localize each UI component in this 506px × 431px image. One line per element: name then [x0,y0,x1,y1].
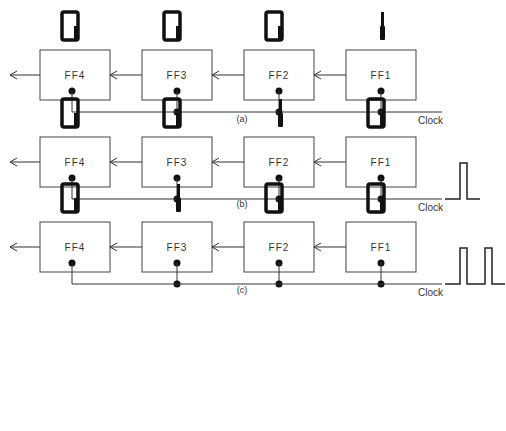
digit-display-0 [164,12,180,40]
clock-pulse-waveform [445,248,505,284]
panel-caption: (b) [237,199,248,209]
flip-flop-ff4: FF4 [40,12,110,112]
digit-display-0 [62,99,78,127]
flip-flop-ff1: FF1 [314,99,416,203]
digit-display-0 [368,99,384,127]
panel-a: FF4FF3FF2FF1Clock(a) [10,12,444,126]
flip-flop-label: FF2 [269,242,290,253]
flip-flop-label: FF4 [65,242,86,253]
panel-caption: (c) [237,285,248,295]
digit-segment-shade [278,113,283,127]
flip-flop-ff3: FF3 [110,99,212,203]
flip-flop-label: FF4 [65,70,86,81]
clock-label: Clock [418,115,444,126]
digit-segment-shade [278,198,282,212]
digit-display-0 [62,184,78,212]
flip-flop-ff1: FF1 [314,184,416,288]
digit-one-icon [279,99,282,113]
digit-segment-shade [74,26,78,40]
clock-label: Clock [418,287,444,298]
digit-display-0 [368,184,384,212]
digit-segment-shade [380,113,384,127]
digit-segment-shade [176,113,180,127]
digit-segment-shade [74,113,78,127]
flip-flop-ff2: FF2 [212,12,314,116]
flip-flop-label: FF2 [269,157,290,168]
digit-display-0 [266,12,282,40]
shift-register-diagram: FF4FF3FF2FF1Clock(a)FF4FF3FF2FF1Clock(b)… [0,0,506,431]
digit-display-0 [62,12,78,40]
flip-flop-ff2: FF2 [212,99,314,203]
flip-flop-label: FF3 [167,157,188,168]
flip-flop-label: FF3 [167,242,188,253]
digit-one-icon [381,12,384,26]
flip-flop-label: FF2 [269,70,290,81]
flip-flop-label: FF3 [167,70,188,81]
flip-flop-label: FF1 [371,70,392,81]
digit-segment-shade [278,26,282,40]
flip-flop-ff1: FF1 [314,12,416,116]
flip-flop-ff2: FF2 [212,184,314,288]
digit-segment-shade [74,198,78,212]
flip-flop-ff3: FF3 [110,184,212,288]
panel-caption: (a) [237,114,248,124]
flip-flop-label: FF1 [371,157,392,168]
digit-segment-shade [176,198,181,212]
clock-pulse-waveform [445,163,480,199]
digit-segment-shade [176,26,180,40]
clock-label: Clock [418,202,444,213]
flip-flop-ff3: FF3 [110,12,212,116]
digit-display-0 [266,184,282,212]
digit-display-0 [164,99,180,127]
digit-one-icon [177,184,180,198]
digit-display-1 [380,12,385,40]
digit-segment-shade [380,198,384,212]
flip-flop-label: FF4 [65,157,86,168]
flip-flop-label: FF1 [371,242,392,253]
digit-segment-shade [380,26,385,40]
